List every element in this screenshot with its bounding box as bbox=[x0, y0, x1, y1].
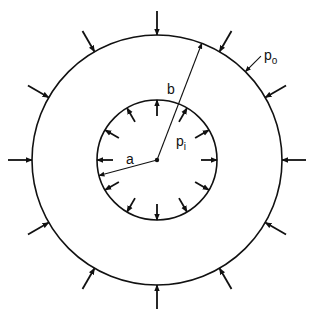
label-b: b bbox=[167, 81, 175, 97]
inner-pressure-arrow bbox=[105, 182, 119, 190]
label-p-i-base: p bbox=[176, 133, 184, 149]
inner-pressure-arrow bbox=[127, 108, 135, 122]
inner-pressure-arrow bbox=[127, 198, 135, 212]
outer-pressure-arrow bbox=[28, 86, 49, 98]
inner-pressure-arrow bbox=[179, 198, 187, 212]
po-leader-arrow bbox=[245, 56, 261, 72]
outer-pressure-arrow bbox=[83, 31, 95, 52]
inner-pressure-arrow bbox=[179, 108, 187, 122]
outer-pressure-arrow bbox=[28, 223, 49, 235]
outer-pressure-arrow bbox=[265, 86, 286, 98]
label-p-o-base: p bbox=[264, 47, 272, 63]
label-p-i: pi bbox=[176, 133, 186, 152]
outer-pressure-arrow bbox=[83, 268, 95, 289]
label-p-o-sub: o bbox=[272, 55, 278, 66]
outer-pressure-arrow bbox=[220, 268, 232, 289]
pressure-cylinder-diagram: a b pi po bbox=[0, 0, 312, 316]
inner-pressure-arrow bbox=[195, 130, 209, 138]
label-a: a bbox=[126, 151, 134, 167]
inner-pressure-arrow bbox=[195, 182, 209, 190]
inner-pressure-arrow bbox=[105, 130, 119, 138]
label-p-o: po bbox=[264, 47, 278, 66]
outer-pressure-arrow bbox=[220, 31, 232, 52]
outer-pressure-arrow bbox=[265, 223, 286, 235]
label-p-i-sub: i bbox=[184, 141, 186, 152]
